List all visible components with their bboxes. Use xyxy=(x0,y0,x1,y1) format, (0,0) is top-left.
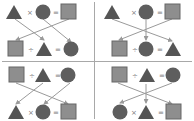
circle-icon xyxy=(61,68,76,83)
triangle-icon xyxy=(36,42,52,56)
circle-icon xyxy=(166,68,181,83)
times-operator: × xyxy=(27,9,33,17)
quadrant-top-right: × = ÷ = xyxy=(104,4,181,57)
circle-icon xyxy=(64,42,79,57)
triangle-icon xyxy=(6,5,22,19)
equals-operator: = xyxy=(157,46,163,54)
equals-operator: = xyxy=(158,109,164,117)
triangle-icon xyxy=(139,68,155,82)
square-icon xyxy=(61,4,76,19)
divide-operator: ÷ xyxy=(132,72,138,80)
equals-operator: = xyxy=(159,72,165,80)
circle-icon xyxy=(113,105,128,120)
square-icon xyxy=(8,41,23,56)
divide-operator: ÷ xyxy=(28,46,34,54)
equals-operator: = xyxy=(55,72,61,80)
times-operator: × xyxy=(131,9,137,17)
triangle-icon xyxy=(104,5,120,19)
divide-operator: ÷ xyxy=(29,72,35,80)
circle-icon xyxy=(36,5,51,20)
fact-family-diagram: × = ÷ = × = ÷ = ÷ xyxy=(0,0,194,121)
triangle-icon xyxy=(138,105,154,119)
square-icon xyxy=(166,104,181,119)
equals-operator: = xyxy=(53,9,59,17)
quadrant-bottom-right: ÷ = × = xyxy=(112,67,181,120)
times-operator: × xyxy=(28,109,34,117)
square-icon xyxy=(112,67,127,82)
square-icon xyxy=(112,41,127,56)
triangle-icon xyxy=(165,42,181,56)
quadrant-bottom-left: ÷ = × = xyxy=(8,67,76,120)
triangle-icon xyxy=(35,68,51,82)
triangle-icon xyxy=(8,105,24,119)
equals-operator: = xyxy=(55,46,61,54)
equals-operator: = xyxy=(53,109,59,117)
times-operator: × xyxy=(131,109,137,117)
circle-icon xyxy=(139,42,154,57)
circle-icon xyxy=(36,105,51,120)
circle-icon xyxy=(139,5,154,20)
square-icon xyxy=(9,67,24,82)
equals-operator: = xyxy=(157,9,163,17)
square-icon xyxy=(61,104,76,119)
divide-operator: ÷ xyxy=(132,46,138,54)
square-icon xyxy=(165,4,180,19)
quadrant-top-left: × = ÷ = xyxy=(6,4,79,57)
